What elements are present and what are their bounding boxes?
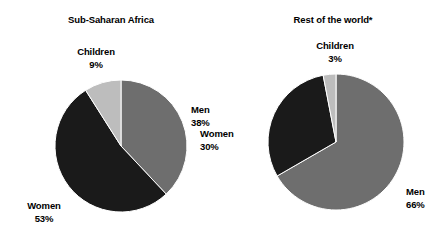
slice-label-women-value: 30% — [200, 141, 272, 154]
slice-label-men-text: Men — [406, 186, 425, 197]
slice-label-men-sub-saharan-africa: Men 38% — [191, 104, 251, 129]
slice-label-women-sub-saharan-africa: Women 53% — [4, 200, 84, 225]
slice-label-children-value: 3% — [287, 53, 383, 66]
slice-label-women-rest-of-the-world: Women 30% — [200, 128, 272, 153]
slice-label-women-text: Women — [27, 200, 61, 211]
slice-label-women-text: Women — [200, 128, 234, 139]
chart-title-sub-saharan-africa: Sub-Saharan Africa — [0, 14, 222, 25]
pie-chart-rest-of-the-world — [268, 74, 404, 210]
slice-label-men-text: Men — [191, 104, 210, 115]
pie-chart-sub-saharan-africa — [55, 80, 187, 212]
slice-label-children-value: 9% — [48, 59, 144, 72]
slice-label-children-rest-of-the-world: Children 3% — [287, 40, 383, 65]
slice-label-men-rest-of-the-world: Men 66% — [406, 186, 444, 211]
chart-title-rest-of-the-world: Rest of the world* — [222, 14, 444, 25]
slice-label-children-text: Children — [316, 40, 354, 51]
slice-label-children-sub-saharan-africa: Children 9% — [48, 46, 144, 71]
slice-label-children-text: Children — [77, 46, 115, 57]
slice-label-men-value: 66% — [406, 199, 444, 212]
pie-chart-figure: Sub-Saharan Africa Rest of the world* Ch… — [0, 0, 444, 244]
slice-label-women-value: 53% — [4, 213, 84, 226]
